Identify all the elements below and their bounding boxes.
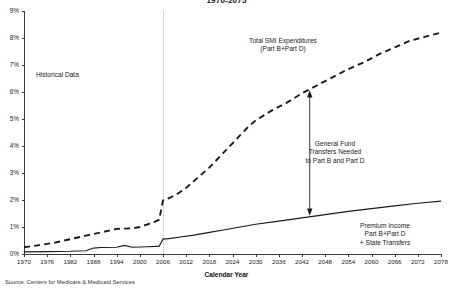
y-tick-label: 1% bbox=[0, 223, 19, 230]
x-tick-mark bbox=[70, 254, 71, 257]
x-tick-mark bbox=[47, 254, 48, 257]
y-tick-label: 4% bbox=[0, 142, 19, 149]
x-tick-mark bbox=[24, 254, 25, 257]
x-tick-mark bbox=[279, 254, 280, 257]
x-tick-mark bbox=[372, 254, 373, 257]
total-smi-expenditures-line bbox=[24, 33, 441, 248]
y-tick-label: 3% bbox=[0, 169, 19, 176]
y-tick-label: 0% bbox=[0, 250, 19, 257]
x-tick-mark bbox=[325, 254, 326, 257]
x-tick-mark bbox=[302, 254, 303, 257]
y-tick-label: 2% bbox=[0, 196, 19, 203]
x-tick-mark bbox=[418, 254, 419, 257]
x-tick-mark bbox=[140, 254, 141, 257]
annotation-historical-data: Historical Data bbox=[36, 71, 79, 79]
y-tick-label: 9% bbox=[0, 7, 19, 14]
annotation-premium-income: Premium Income Part B+Part D + State Tra… bbox=[360, 222, 410, 247]
annotation-line-3: to Part B and Part D bbox=[305, 157, 364, 165]
plot-area: 0%1%2%3%4%5%6%7%8%9% 1970197619821988199… bbox=[24, 11, 441, 254]
series-layer bbox=[24, 11, 441, 254]
annotation-line-1: Total SMI Expenditures bbox=[249, 37, 317, 45]
x-tick-label: 2078 bbox=[426, 258, 453, 265]
x-tick-mark bbox=[117, 254, 118, 257]
annotation-line-2: (Part B+Part D) bbox=[249, 45, 317, 53]
x-tick-mark bbox=[209, 254, 210, 257]
x-tick-mark bbox=[233, 254, 234, 257]
y-tick-label: 5% bbox=[0, 115, 19, 122]
chart-title: 1970-2075 bbox=[0, 0, 453, 5]
chart-container: 1970-2075 0%1%2%3%4%5%6%7%8%9% 197019761… bbox=[0, 0, 453, 289]
annotation-line-3: + State Transfers bbox=[360, 239, 410, 247]
x-tick-mark bbox=[163, 254, 164, 257]
annotation-line-1: General Fund bbox=[305, 140, 364, 148]
x-tick-mark bbox=[395, 254, 396, 257]
annotation-line-1: Premium Income bbox=[360, 222, 410, 230]
x-tick-mark bbox=[256, 254, 257, 257]
x-tick-mark bbox=[348, 254, 349, 257]
y-tick-label: 6% bbox=[0, 88, 19, 95]
y-tick-label: 7% bbox=[0, 61, 19, 68]
x-tick-mark bbox=[94, 254, 95, 257]
annotation-line-2: Transfers Needed bbox=[305, 148, 364, 156]
x-axis-title: Calendar Year bbox=[0, 271, 453, 278]
annotation-general-fund-transfers: General Fund Transfers Needed to Part B … bbox=[305, 140, 364, 165]
x-tick-mark bbox=[441, 254, 442, 257]
source-note: Source: Centers for Medicare & Medicaid … bbox=[5, 279, 135, 285]
y-tick-label: 8% bbox=[0, 34, 19, 41]
annotation-total-smi-expenditures: Total SMI Expenditures (Part B+Part D) bbox=[249, 37, 317, 54]
annotation-line-2: Part B+Part D bbox=[360, 230, 410, 238]
x-tick-mark bbox=[186, 254, 187, 257]
